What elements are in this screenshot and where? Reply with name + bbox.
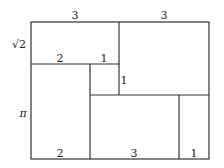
label-top-right-width: 3 xyxy=(161,9,168,22)
label-mid-left-width: 2 xyxy=(57,52,64,65)
label-bottom-mid-width: 3 xyxy=(131,147,138,160)
label-bottom-right-width: 1 xyxy=(191,147,198,160)
label-small-square-height: 1 xyxy=(121,74,128,87)
label-mid-small-width: 1 xyxy=(101,52,108,65)
label-top-left-width: 3 xyxy=(72,9,79,22)
dissection-diagram: 3 3 √2 π 2 1 1 2 3 1 xyxy=(0,0,224,168)
label-left-top-height: √2 xyxy=(12,38,26,51)
outer-rectangle xyxy=(31,22,209,159)
label-bottom-left-width: 2 xyxy=(57,147,64,160)
label-left-bottom-height: π xyxy=(18,107,27,120)
